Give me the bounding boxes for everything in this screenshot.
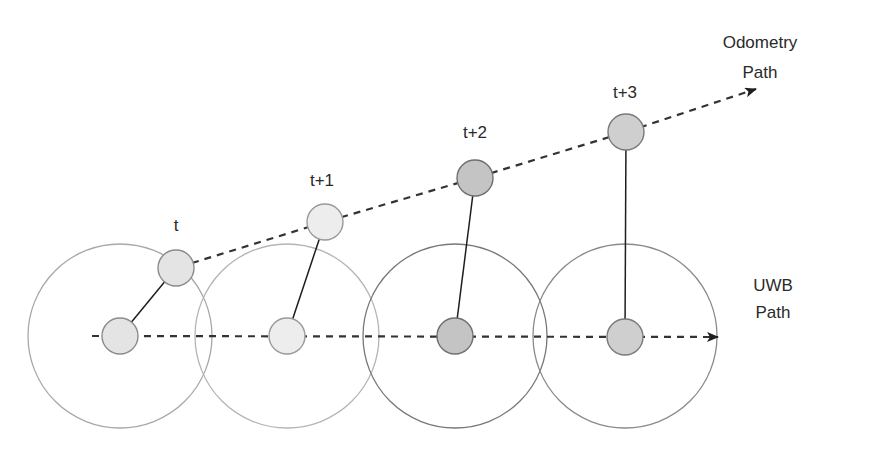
timestep-label-t: t xyxy=(174,216,179,235)
odometry-path-label-line1: Odometry xyxy=(723,33,798,52)
uwb-node-t xyxy=(102,318,138,354)
timestep-label-t1: t+1 xyxy=(310,171,334,190)
odom-node-t1 xyxy=(307,204,343,240)
odom-node-t xyxy=(158,250,194,286)
uwb-path-label-line2: Path xyxy=(756,303,791,322)
uwb-node-t1 xyxy=(269,318,305,354)
odometry-nodes xyxy=(158,114,644,286)
uwb-node-t2 xyxy=(437,318,473,354)
timestep-label-t2: t+2 xyxy=(463,123,487,142)
link-t3 xyxy=(625,132,626,336)
odom-node-t2 xyxy=(457,160,493,196)
odometry-path-label-line2: Path xyxy=(743,63,778,82)
odometry-uwb-diagram: t t+1 t+2 t+3 Odometry Path UWB Path xyxy=(0,0,872,456)
timestep-label-t3: t+3 xyxy=(613,83,637,102)
uwb-path-label-line1: UWB xyxy=(753,276,793,295)
odom-node-t3 xyxy=(608,114,644,150)
uwb-node-t3 xyxy=(607,319,643,355)
link-t2 xyxy=(455,178,475,336)
correspondence-links xyxy=(120,132,626,336)
